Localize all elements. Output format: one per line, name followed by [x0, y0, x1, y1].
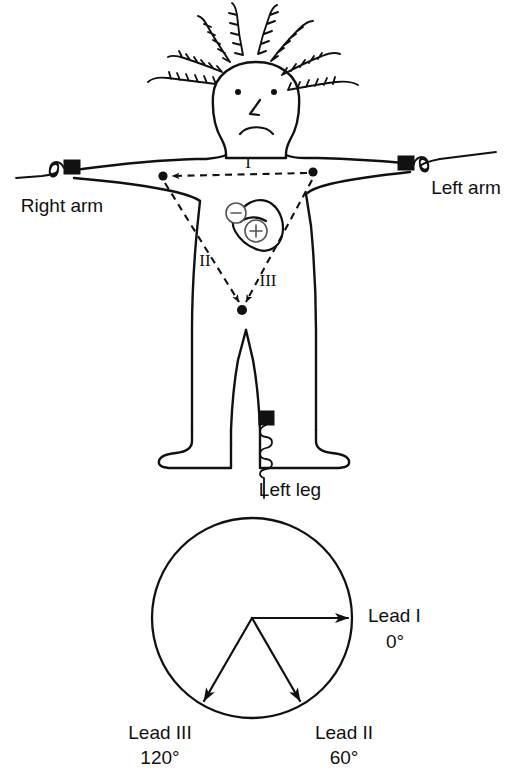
left-leg-electrode[interactable] — [259, 411, 274, 425]
dipole-positive — [245, 220, 267, 242]
left-arm-lead-wire — [414, 152, 496, 172]
hair-strand-3 — [198, 16, 230, 62]
torso-left-side — [192, 201, 200, 430]
lead-3-vector-arrow — [204, 618, 252, 701]
lead-2-axis-line — [165, 183, 239, 302]
left-arm-electrode[interactable] — [398, 156, 414, 170]
frown-mouth-icon — [240, 127, 273, 134]
left-foot-outline — [260, 430, 349, 468]
lead-2-vector-arrow — [252, 618, 300, 701]
lead-1-vector-name: Lead I — [368, 605, 421, 626]
hair-strand-2 — [148, 72, 216, 84]
heart-group — [226, 200, 283, 251]
head-group — [213, 62, 299, 158]
einthoven-triangle-figure: Right arm Left arm Left leg I II III Lea… — [0, 0, 512, 777]
head-outline — [213, 62, 299, 158]
lead-1-vector-degrees: 0° — [386, 631, 404, 652]
eye-right-icon — [271, 89, 277, 95]
nose-icon — [250, 100, 260, 115]
right-arm-electrode[interactable] — [64, 160, 80, 174]
right-arm-lead-wire — [16, 162, 64, 178]
lead-1-roman-label: I — [245, 153, 251, 172]
hair-strand-7 — [282, 53, 340, 75]
lead-2-roman-label: II — [199, 251, 211, 270]
lead-2-vector-name: Lead II — [315, 722, 373, 743]
hair-strand-5 — [258, 5, 278, 54]
einthoven-triangle-group — [158, 167, 317, 315]
hair-strand-1 — [168, 51, 222, 72]
left-arm-lower-outline — [306, 172, 410, 194]
hair-strand-4 — [229, 3, 243, 55]
figure-root: Right arm Left arm Left leg I II III Lea… — [0, 0, 512, 777]
lead-3-vector-name: Lead III — [128, 722, 191, 743]
right-foot-outline — [159, 430, 231, 468]
left-arm-outline — [286, 155, 414, 164]
left-arm-label: Left arm — [431, 177, 501, 198]
hair-cables-group — [148, 3, 358, 90]
right-arm-label: Right arm — [21, 195, 103, 216]
lead-3-roman-label: III — [260, 271, 277, 290]
dipole-negative — [226, 203, 246, 223]
axis-reference-circle-group: Lead I 0° Lead II 60° Lead III 120° — [128, 518, 421, 768]
vertex-left-shoulder — [308, 167, 317, 176]
torso-right-side — [306, 194, 316, 430]
crotch-inner-right — [246, 330, 260, 444]
right-arm-outline — [70, 155, 226, 170]
left-leg-label: Left leg — [259, 479, 321, 500]
lead-1-axis-line — [172, 173, 307, 176]
crotch-inner-left — [231, 330, 246, 444]
lead-2-vector-degrees: 60° — [330, 747, 359, 768]
hair-strand-6 — [271, 21, 313, 61]
eye-left-icon — [235, 89, 241, 95]
lead-3-vector-degrees: 120° — [140, 747, 179, 768]
vertex-right-shoulder — [158, 171, 167, 180]
vertex-pelvis — [237, 305, 247, 315]
